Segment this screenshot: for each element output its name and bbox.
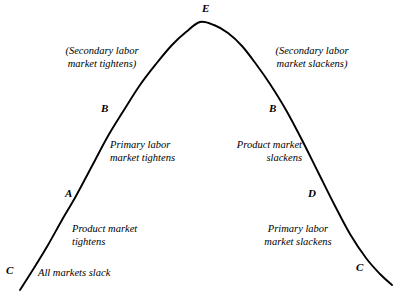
region-label-secondary-slackens: (Secondary labor market slackens) <box>262 44 362 71</box>
region-label-secondary-tightens: (Secondary labor market tightens) <box>52 44 152 71</box>
region-label-secondary-slackens-line2: market slackens) <box>262 57 362 70</box>
point-label-b-right: B <box>269 103 276 114</box>
region-label-product-tightens-line1: Product market <box>72 222 182 235</box>
point-label-d-right: D <box>308 188 316 199</box>
region-label-product-slackens-line1: Product market <box>196 138 302 151</box>
region-label-primary-slackens-line1: Primary labor <box>242 222 354 235</box>
bell-curve-figure: C A B E B D C (Secondary labor market ti… <box>0 0 406 297</box>
region-label-primary-slackens: Primary labor market slackens <box>242 222 354 249</box>
point-label-b-left: B <box>101 103 108 114</box>
point-label-e-apex: E <box>202 3 209 14</box>
region-label-all-markets-slack: All markets slack <box>38 266 168 279</box>
region-label-secondary-tightens-line1: (Secondary labor <box>52 44 152 57</box>
region-label-secondary-slackens-line1: (Secondary labor <box>262 44 362 57</box>
point-label-a-left: A <box>65 188 72 199</box>
region-label-primary-slackens-line2: market slackens <box>242 235 354 248</box>
region-label-product-slackens: Product market slackens <box>196 138 302 165</box>
region-label-product-tightens: Product market tightens <box>72 222 182 249</box>
region-label-product-tightens-line2: tightens <box>72 235 182 248</box>
region-label-secondary-tightens-line2: market tightens) <box>52 57 152 70</box>
point-label-c-right: C <box>356 262 363 273</box>
region-label-product-slackens-line2: slackens <box>196 151 302 164</box>
point-label-c-left: C <box>6 265 13 276</box>
